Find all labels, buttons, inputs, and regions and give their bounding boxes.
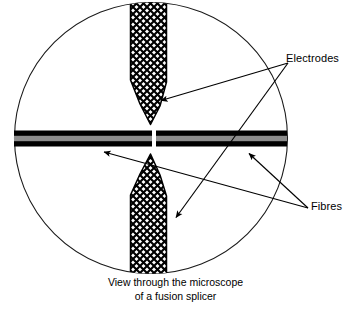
label-electrodes: Electrodes xyxy=(286,52,339,64)
splice-gap xyxy=(152,130,156,148)
label-fibres: Fibres xyxy=(311,200,342,212)
figure-caption: View through the microscope of a fusion … xyxy=(0,276,351,303)
fusion-splicer-diagram xyxy=(0,0,351,321)
fibre-left xyxy=(14,131,152,147)
fibre-right xyxy=(156,131,287,147)
fibre-left-core xyxy=(14,136,152,141)
fibre-right-core xyxy=(156,136,287,141)
caption-line-1: View through the microscope xyxy=(0,276,351,290)
caption-line-2: of a fusion splicer xyxy=(0,290,351,304)
figure-canvas: Electrodes Fibres View through the micro… xyxy=(0,0,351,321)
